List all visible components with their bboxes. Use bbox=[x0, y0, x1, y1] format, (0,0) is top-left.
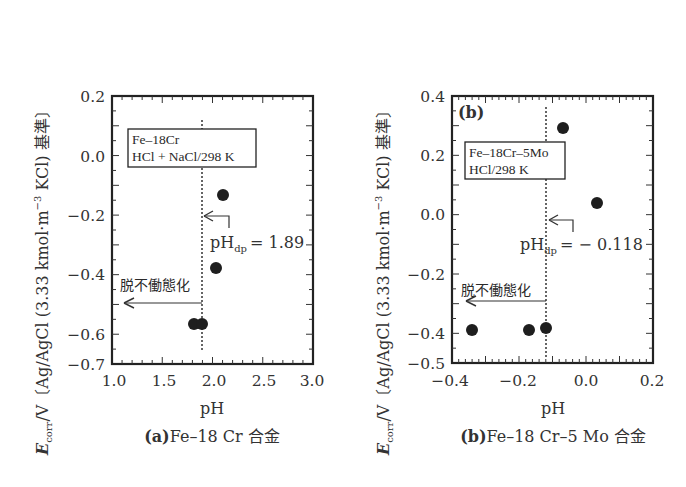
svg-text:−0.7: −0.7 bbox=[67, 356, 105, 374]
svg-text:Fe–18Cr–5Mo: Fe–18Cr–5Mo bbox=[469, 145, 549, 160]
svg-text:0.2: 0.2 bbox=[80, 88, 105, 106]
svg-text:脱不働態化: 脱不働態化 bbox=[120, 277, 190, 293]
panel-b-caption: (b)Fe–18 Cr–5 Mo 合金 bbox=[460, 427, 646, 446]
svg-text:1.0: 1.0 bbox=[102, 372, 127, 390]
panel-b-phdp-annotation: pHdp= − 0.118 bbox=[520, 215, 643, 256]
panel-b-depassivation-annotation: 脱不働態化 bbox=[461, 282, 546, 306]
panel-b-xticks: −0.4 −0.2 0.0 0.2 bbox=[431, 372, 664, 390]
svg-text:HCl/298 K: HCl/298 K bbox=[469, 162, 529, 177]
panel-b-minor-ticks bbox=[452, 96, 653, 363]
svg-text:pHdp= − 0.118: pHdp= − 0.118 bbox=[520, 235, 643, 256]
panel-b-tag: (b) bbox=[458, 103, 484, 122]
panel-a-caption: (a)Fe–18 Cr 合金 bbox=[144, 427, 280, 446]
panel-a-xticks: 1.0 1.5 2.0 2.5 3.0 bbox=[102, 372, 325, 390]
svg-text:0.0: 0.0 bbox=[80, 148, 105, 166]
panel-a-points bbox=[188, 189, 229, 330]
svg-text:−0.4: −0.4 bbox=[407, 325, 445, 343]
svg-text:0.2: 0.2 bbox=[420, 147, 445, 165]
panel-b-yticks: 0.4 0.2 0.0 −0.2 −0.4 −0.5 bbox=[407, 88, 445, 373]
panel-a-legend-box: Fe–18Cr HCl + NaCl/298 K bbox=[128, 129, 256, 167]
svg-text:HCl + NaCl/298 K: HCl + NaCl/298 K bbox=[132, 149, 235, 164]
svg-text:0.2: 0.2 bbox=[640, 372, 665, 390]
svg-text:−0.2: −0.2 bbox=[67, 207, 105, 225]
panel-a-depassivation-annotation: 脱不働態化 bbox=[120, 277, 202, 308]
svg-text:0.4: 0.4 bbox=[420, 88, 445, 106]
svg-text:3.0: 3.0 bbox=[300, 372, 325, 390]
svg-text:1.5: 1.5 bbox=[152, 372, 177, 390]
svg-text:−0.2: −0.2 bbox=[407, 266, 445, 284]
panel-b-ylabel: Ecorr/V〔Ag/AgCl (3.33 kmol·m−3 KCl) 基準〕 bbox=[373, 102, 395, 456]
panel-a: Ecorr/V〔Ag/AgCl (3.33 kmol·m−3 KCl) 基準〕 … bbox=[32, 88, 324, 456]
figure-canvas: Ecorr/V〔Ag/AgCl (3.33 kmol·m−3 KCl) 基準〕 … bbox=[0, 0, 686, 487]
panel-b-xlabel: pH bbox=[541, 399, 565, 418]
svg-text:pHdp= 1.89: pHdp= 1.89 bbox=[210, 233, 304, 254]
svg-text:2.0: 2.0 bbox=[202, 372, 227, 390]
svg-text:脱不働態化: 脱不働態化 bbox=[461, 282, 531, 298]
svg-text:−0.6: −0.6 bbox=[67, 326, 105, 344]
panel-a-phdp-annotation: pHdp= 1.89 bbox=[204, 211, 304, 254]
panel-a-ylabel: Ecorr/V〔Ag/AgCl (3.33 kmol·m−3 KCl) 基準〕 bbox=[32, 102, 54, 456]
svg-text:2.5: 2.5 bbox=[252, 372, 277, 390]
svg-text:−0.4: −0.4 bbox=[67, 266, 105, 284]
svg-text:Fe–18Cr: Fe–18Cr bbox=[132, 132, 180, 147]
svg-text:−0.4: −0.4 bbox=[431, 372, 469, 390]
svg-text:−0.5: −0.5 bbox=[407, 355, 445, 373]
svg-text:−0.2: −0.2 bbox=[499, 372, 537, 390]
panel-b-plot-frame bbox=[452, 96, 653, 363]
svg-text:0.0: 0.0 bbox=[574, 372, 599, 390]
svg-text:0.0: 0.0 bbox=[420, 206, 445, 224]
panel-a-yticks: 0.2 0.0 −0.2 −0.4 −0.6 −0.7 bbox=[67, 88, 105, 374]
panel-b-legend-box: Fe–18Cr–5Mo HCl/298 K bbox=[465, 142, 565, 179]
panel-b: Ecorr/V〔Ag/AgCl (3.33 kmol·m−3 KCl) 基準〕 … bbox=[373, 88, 664, 456]
panel-a-xlabel: pH bbox=[200, 399, 224, 418]
